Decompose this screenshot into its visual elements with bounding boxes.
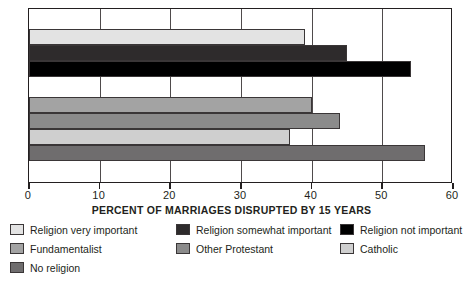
legend-item: Catholic — [340, 241, 398, 256]
legend-item: Religion not important — [340, 222, 462, 237]
x-axis-tick-labels: 0102030405060 — [0, 189, 463, 203]
legend-item-label: Catholic — [360, 243, 398, 255]
legend-item-label: No religion — [30, 262, 80, 274]
legend-swatch-icon — [10, 224, 24, 235]
horizontal-bar-chart: 0102030405060 PERCENT OF MARRIAGES DISRU… — [0, 0, 463, 284]
legend: Religion very importantFundamentalistNo … — [0, 222, 463, 280]
bar-religion-very-important — [29, 29, 305, 45]
tick-label-50: 50 — [366, 189, 396, 202]
legend-item-label: Religion very important — [30, 224, 137, 236]
legend-item: Other Protestant — [176, 241, 273, 256]
legend-swatch-icon — [340, 224, 354, 235]
legend-item: Religion very important — [10, 222, 137, 237]
legend-swatch-icon — [176, 243, 190, 254]
tick-label-20: 20 — [154, 189, 184, 202]
bar-row — [29, 97, 451, 113]
bar-religion-not-important — [29, 61, 411, 77]
tick-label-60: 60 — [437, 189, 463, 202]
bar-row — [29, 45, 451, 61]
bar-row — [29, 113, 451, 129]
legend-item: No religion — [10, 260, 80, 275]
bars-layer — [29, 9, 451, 182]
legend-swatch-icon — [10, 243, 24, 254]
bar-row — [29, 129, 451, 145]
bar-religion-somewhat-important — [29, 45, 347, 61]
legend-swatch-icon — [10, 262, 24, 273]
plot-area — [28, 8, 452, 183]
tick-label-10: 10 — [84, 189, 114, 202]
legend-item-label: Fundamentalist — [30, 243, 102, 255]
bar-row — [29, 29, 451, 45]
bar-row — [29, 61, 451, 77]
legend-item: Fundamentalist — [10, 241, 102, 256]
legend-item-label: Religion not important — [360, 224, 462, 236]
legend-item: Religion somewhat important — [176, 222, 331, 237]
bar-catholic — [29, 129, 290, 145]
bar-other-protestant — [29, 113, 340, 129]
x-axis-title: PERCENT OF MARRIAGES DISRUPTED BY 15 YEA… — [0, 204, 463, 216]
bar-row — [29, 145, 451, 161]
bar-fundamentalist — [29, 97, 312, 113]
legend-item-label: Other Protestant — [196, 243, 273, 255]
bar-no-religion — [29, 145, 425, 161]
tick-label-0: 0 — [13, 189, 43, 202]
tick-label-30: 30 — [225, 189, 255, 202]
tick-label-40: 40 — [296, 189, 326, 202]
legend-swatch-icon — [340, 243, 354, 254]
legend-item-label: Religion somewhat important — [196, 224, 331, 236]
legend-swatch-icon — [176, 224, 190, 235]
